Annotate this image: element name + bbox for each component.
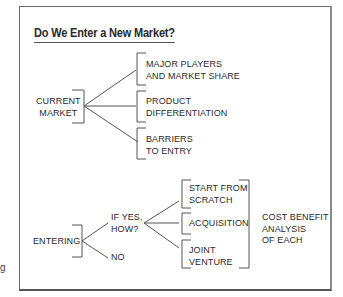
node-text-line: JOINT bbox=[189, 245, 233, 257]
node-joint-venture: JOINT VENTURE bbox=[189, 245, 233, 268]
node-acquisition: ACQUISITION bbox=[189, 218, 249, 230]
node-text-line: MARKET bbox=[36, 108, 81, 120]
node-text-line: CURRENT bbox=[36, 96, 81, 108]
node-text-line: VENTURE bbox=[189, 257, 233, 269]
node-no: NO bbox=[111, 252, 125, 264]
node-current-market: CURRENT MARKET bbox=[36, 96, 81, 119]
node-text-line: AND MARKET SHARE bbox=[146, 71, 240, 83]
node-text-line: ANALYSIS bbox=[262, 224, 329, 236]
node-barriers-to-entry: BARRIERS TO ENTRY bbox=[146, 134, 193, 157]
node-text-line: TO ENTRY bbox=[146, 146, 193, 158]
node-text-line: OF EACH bbox=[262, 235, 329, 247]
node-text-line: MAJOR PLAYERS bbox=[146, 59, 240, 71]
node-text-line: SCRATCH bbox=[189, 195, 248, 207]
node-text-line: START FROM bbox=[189, 183, 248, 195]
node-major-players: MAJOR PLAYERS AND MARKET SHARE bbox=[146, 59, 240, 82]
node-text-line: PRODUCT bbox=[146, 96, 227, 108]
node-text-line: IF YES, bbox=[111, 212, 143, 224]
node-text-line: BARRIERS bbox=[146, 134, 193, 146]
node-start-from-scratch: START FROM SCRATCH bbox=[189, 183, 248, 206]
node-if-yes-how: IF YES, HOW? bbox=[111, 212, 143, 235]
node-cost-benefit-analysis: COST BENEFIT ANALYSIS OF EACH bbox=[262, 212, 329, 247]
node-entering: ENTERING bbox=[33, 236, 80, 248]
node-text-line: DIFFERENTIATION bbox=[146, 108, 227, 120]
node-text-line: HOW? bbox=[111, 224, 143, 236]
node-product-differentiation: PRODUCT DIFFERENTIATION bbox=[146, 96, 227, 119]
node-text-line: COST BENEFIT bbox=[262, 212, 329, 224]
